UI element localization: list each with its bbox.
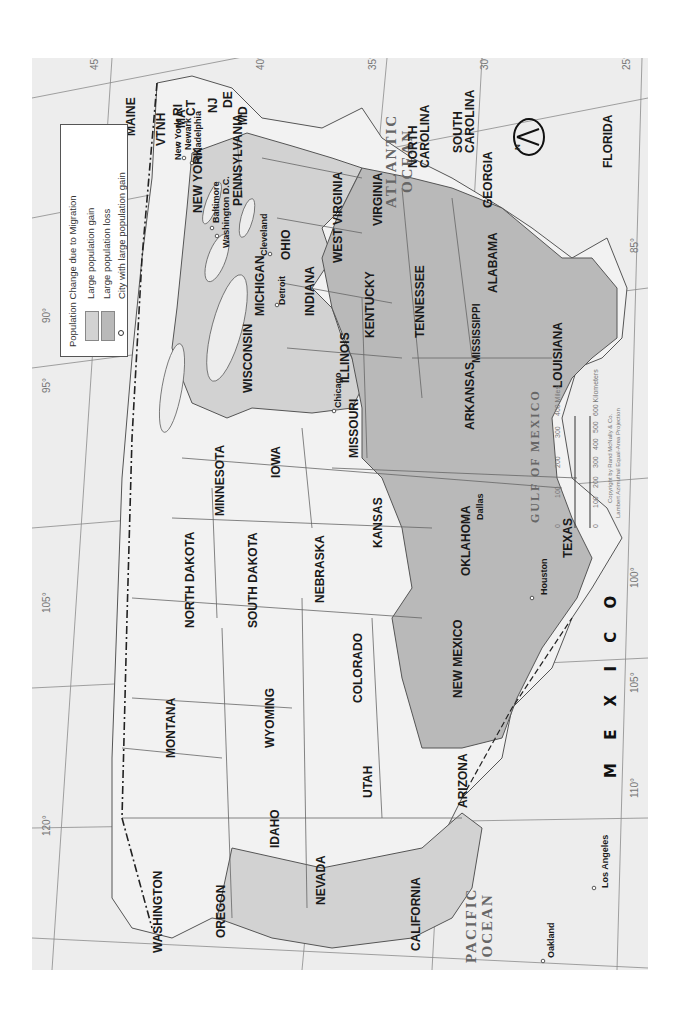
state-label-florida: FLORIDA bbox=[602, 115, 614, 168]
scale-km-500: 500 bbox=[592, 421, 599, 433]
scale-km-400: 400 bbox=[592, 438, 599, 450]
legend-label-loss: Large population loss bbox=[101, 209, 112, 299]
scale-miles-400: 400 Miles bbox=[554, 386, 561, 416]
state-label-colorado: COLORADO bbox=[352, 633, 364, 703]
state-label-arkansas: ARKANSAS bbox=[464, 362, 476, 430]
state-label-wisconsin: WISCONSIN bbox=[242, 324, 254, 393]
state-label-kansas: KANSAS bbox=[372, 497, 384, 548]
state-label-nh: NH bbox=[155, 113, 167, 130]
scale-miles-200: 200 bbox=[554, 456, 561, 468]
lat-tick-30: 30° bbox=[480, 58, 490, 70]
state-label-southcarolina: SOUTH CAROLINA bbox=[452, 90, 476, 153]
lat-tick-35: 35° bbox=[368, 58, 378, 70]
state-label-nebraska: NEBRASKA bbox=[314, 535, 326, 603]
state-label-alabama: ALABAMA bbox=[487, 232, 499, 293]
scale-miles-300: 300 bbox=[554, 426, 561, 438]
state-label-oklahoma: OKLAHOMA bbox=[460, 505, 472, 576]
legend: Population Change due to Migration Large… bbox=[60, 124, 128, 357]
city-label-los-angeles: Los Angeles bbox=[601, 835, 610, 888]
country-label-mexico: M E X I C O bbox=[604, 587, 619, 778]
scale-km-100: 100 bbox=[592, 496, 599, 508]
lat-tick-40: 40° bbox=[256, 58, 266, 70]
scale-miles-0: 0 bbox=[554, 524, 561, 528]
credit-projection: Lambert Azimuthal Equal-Area Projection bbox=[615, 408, 621, 518]
state-label-missouri: MISSOURI bbox=[348, 399, 360, 458]
lat-tick-25: 25° bbox=[622, 58, 632, 70]
scale-miles-100: 100 bbox=[554, 486, 561, 498]
state-label-northcarolina: NORTH CAROLINA bbox=[407, 105, 431, 168]
lon-tick-105-right: 105° bbox=[630, 672, 640, 693]
state-label-minnesota: MINNESOTA bbox=[214, 445, 226, 516]
scale-km-200: 200 bbox=[592, 476, 599, 488]
state-label-de: DE bbox=[222, 91, 234, 108]
lon-tick-100: 100° bbox=[630, 567, 640, 588]
state-label-northdakota: NORTH DAKOTA bbox=[184, 532, 196, 628]
state-label-iowa: IOWA bbox=[270, 446, 282, 478]
state-label-arizona: ARIZONA bbox=[457, 753, 469, 808]
lat-tick-45: 45° bbox=[90, 58, 100, 70]
state-label-washington: WASHINGTON bbox=[152, 871, 164, 953]
state-label-montana: MONTANA bbox=[165, 698, 177, 758]
city-label-baltimore: Baltimore bbox=[212, 181, 221, 223]
lon-tick-95: 95° bbox=[42, 378, 52, 393]
scale-km-300: 300 bbox=[592, 456, 599, 468]
city-label-detroit: Detroit bbox=[278, 276, 287, 305]
scale-km-0: 0 bbox=[592, 524, 599, 528]
city-label-washington-dc: Washington D.C. bbox=[222, 176, 231, 248]
ocean-label-gulf: GULF OF MEXICO bbox=[529, 389, 542, 523]
lon-tick-110: 110° bbox=[630, 778, 640, 798]
state-label-oregon: OREGON bbox=[215, 885, 227, 938]
state-label-tennessee: TENNESSEE bbox=[414, 265, 426, 338]
ocean-label-pacific: PACIFIC OCEAN bbox=[464, 888, 496, 963]
legend-title: Population Change due to Migration bbox=[67, 195, 78, 347]
credit-copyright: Copyright by Rand McNally & Co. bbox=[607, 414, 613, 503]
state-label-nj: NJ bbox=[207, 98, 219, 113]
state-label-texas: TEXAS bbox=[562, 518, 574, 558]
state-label-wyoming: WYOMING bbox=[264, 688, 276, 748]
state-label-california: CALIFORNIA bbox=[410, 877, 422, 951]
lon-tick-105: 105° bbox=[42, 592, 52, 613]
state-label-idaho: IDAHO bbox=[269, 809, 281, 848]
state-label-georgia: GEORGIA bbox=[482, 151, 494, 208]
state-label-pennsylvania: PENNSYLVANIA bbox=[232, 114, 244, 206]
state-label-ohio: OHIO bbox=[280, 229, 292, 260]
state-label-michigan: MICHIGAN bbox=[254, 255, 266, 316]
state-label-vt: VT bbox=[155, 131, 167, 146]
legend-label-city: City with large population gain bbox=[116, 172, 127, 299]
lon-tick-90: 90° bbox=[42, 308, 52, 323]
city-label-newark: Newark bbox=[184, 118, 193, 150]
state-label-kentucky: KENTUCKY bbox=[364, 271, 376, 338]
legend-city-symbol bbox=[118, 330, 124, 336]
state-label-louisiana: LOUISIANA bbox=[552, 322, 564, 388]
city-label-houston: Houston bbox=[540, 559, 549, 596]
state-label-mississippi: MISSISSIPPI bbox=[472, 304, 482, 363]
city-label-new-york: New York bbox=[174, 120, 183, 160]
state-label-indiana: INDIANA bbox=[304, 266, 316, 316]
city-label-cleveland: Cleveland bbox=[260, 213, 269, 256]
state-label-southdakota: SOUTH DAKOTA bbox=[247, 532, 259, 628]
state-label-utah: UTAH bbox=[362, 766, 374, 798]
state-label-westvirginia: WEST VIRGINIA bbox=[332, 172, 344, 263]
state-label-nevada: NEVADA bbox=[315, 855, 327, 905]
scale-km-600: 600 Kilometers bbox=[592, 369, 599, 416]
legend-swatch-loss bbox=[101, 311, 115, 341]
state-label-newmexico: NEW MEXICO bbox=[452, 619, 464, 698]
lon-tick-85: 85° bbox=[630, 238, 640, 253]
city-label-dallas: Dallas bbox=[476, 493, 485, 520]
city-label-oakland: Oakland bbox=[547, 922, 556, 958]
legend-label-gain: Large population gain bbox=[85, 208, 96, 299]
state-label-virginia: VIRGINIA bbox=[372, 173, 384, 226]
compass-north-label: N bbox=[514, 144, 522, 150]
lon-tick-120: 120° bbox=[42, 815, 52, 836]
city-label-chicago: Chicago bbox=[334, 372, 343, 408]
legend-swatch-gain bbox=[85, 311, 99, 341]
city-label-philadelphia: Philadelphia bbox=[194, 111, 203, 164]
state-label-ri: RI bbox=[172, 104, 184, 116]
